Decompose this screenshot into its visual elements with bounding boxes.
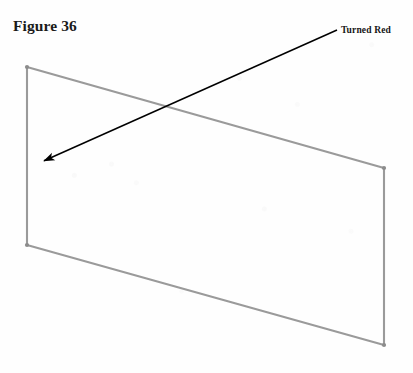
vertex-top-right-dot [382, 166, 386, 170]
panel-vertex-markers [25, 65, 386, 347]
top-edge [27, 67, 384, 168]
figure-page: Figure 36 Turned Red [0, 0, 413, 373]
annotation-arrow [44, 30, 337, 161]
quadrilateral-panel [27, 67, 384, 345]
vertex-bottom-right-dot [382, 343, 386, 347]
vertex-top-left-dot [25, 65, 29, 69]
figure-caption: Figure 36 [13, 17, 77, 35]
bottom-edge [27, 245, 384, 345]
figure-drawing-canvas [0, 0, 413, 373]
annotation-label-turned-red: Turned Red [341, 25, 391, 35]
vertex-bottom-left-dot [25, 243, 29, 247]
